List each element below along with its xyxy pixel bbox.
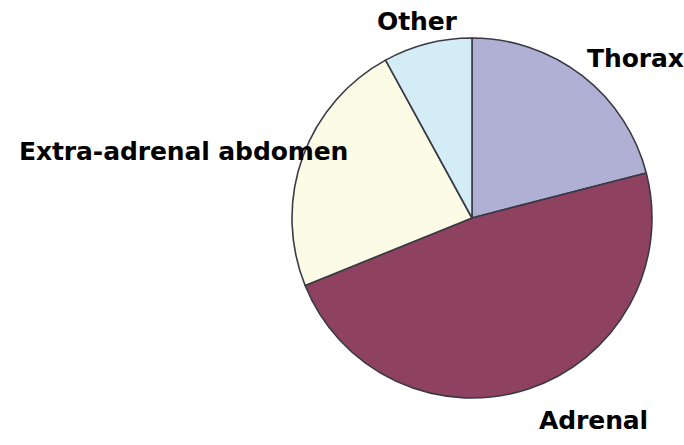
pie-slice-label-adrenal: Adrenal [539,408,648,433]
pie-slice-label-thorax: Thorax [587,46,684,71]
pie-slices-group [292,38,652,398]
pie-slice-label-other: Other [377,9,457,34]
pie-slice-label-extra-adrenal-abdomen: Extra-adrenal abdomen [19,139,348,164]
